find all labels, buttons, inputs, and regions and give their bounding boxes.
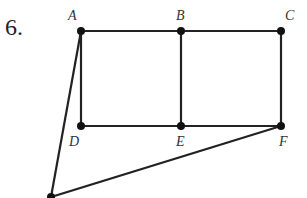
label-c: C [285, 8, 294, 24]
label-d: D [69, 134, 79, 150]
edge-g-f [51, 126, 281, 197]
vertex-e [177, 122, 185, 130]
vertex-g [47, 193, 55, 198]
graph-svg [0, 0, 307, 198]
edge-a-g [51, 31, 81, 197]
label-f: F [279, 134, 288, 150]
label-a: A [68, 8, 77, 24]
label-e: E [176, 134, 185, 150]
vertex-d [77, 122, 85, 130]
label-b: B [176, 8, 185, 24]
vertex-c [277, 27, 285, 35]
vertex-b [177, 27, 185, 35]
graph-figure: 6. A B C D E F [0, 0, 307, 198]
vertex-f [277, 122, 285, 130]
vertex-a [77, 27, 85, 35]
